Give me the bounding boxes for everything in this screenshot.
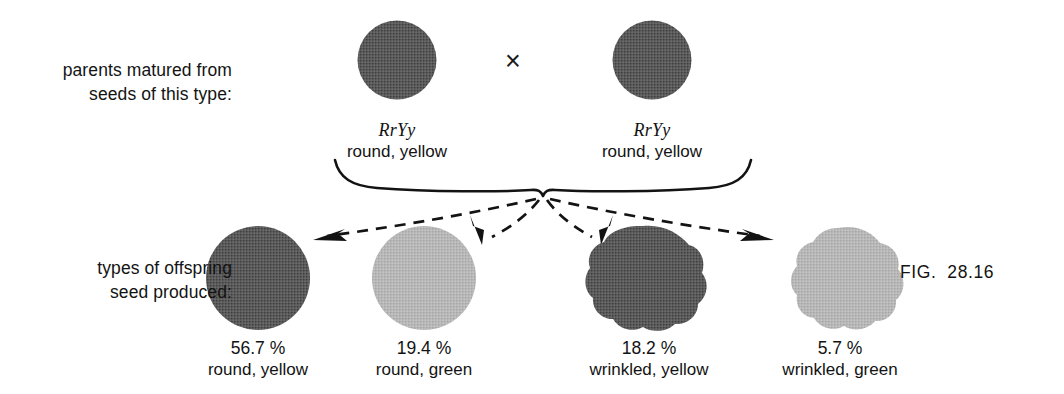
offspring-round-green-seed	[372, 226, 476, 330]
offspring-row-label: types of offspring seed produced:	[0, 256, 232, 304]
arrow-path-wrinkled-yellow	[547, 200, 592, 237]
offspring-wrinkled-green-seed	[791, 227, 903, 329]
offspring-round-green-percent: 19.4 %	[334, 337, 514, 359]
offspring-wrinkled-green-phenotype: wrinkled, green	[750, 359, 930, 381]
offspring-row-label-line2: seed produced:	[0, 280, 232, 304]
parent-left-phenotype: round, yellow	[307, 141, 487, 163]
offspring-wrinkled-yellow-phenotype: wrinkled, yellow	[554, 359, 744, 381]
parent-left-genotype: RrYy	[307, 119, 487, 141]
offspring-row-label-line1: types of offspring	[0, 256, 232, 280]
figure-number: FIG. 28.16	[900, 262, 994, 283]
offspring-round-green-caption: 19.4 % round, green	[334, 337, 514, 381]
parent-left-seed	[358, 21, 437, 100]
offspring-wrinkled-yellow-seed	[585, 226, 706, 331]
offspring-round-yellow-phenotype: round, yellow	[168, 359, 348, 381]
parent-right-caption: RrYy round, yellow	[562, 119, 742, 163]
arrowheads	[313, 215, 774, 245]
offspring-round-yellow-caption: 56.7 % round, yellow	[168, 337, 348, 381]
parents-row-label-line2: seeds of this type:	[0, 82, 232, 106]
offspring-wrinkled-yellow-percent: 18.2 %	[554, 337, 744, 359]
offspring-wrinkled-green-caption: 5.7 % wrinkled, green	[750, 337, 930, 381]
offspring-round-green-phenotype: round, green	[334, 359, 514, 381]
offspring-round-yellow-percent: 56.7 %	[168, 337, 348, 359]
parent-right-genotype: RrYy	[562, 119, 742, 141]
parent-right-seed	[613, 21, 692, 100]
parent-right-phenotype: round, yellow	[562, 141, 742, 163]
arrowhead-round-green	[470, 215, 484, 245]
parents-row-label: parents matured from seeds of this type:	[0, 58, 232, 106]
parent-left-caption: RrYy round, yellow	[307, 119, 487, 163]
figure-canvas: parents matured from seeds of this type:…	[0, 0, 1064, 394]
arrow-path-round-green	[492, 200, 539, 237]
cross-symbol: ×	[496, 44, 530, 78]
offspring-wrinkled-yellow-caption: 18.2 % wrinkled, yellow	[554, 337, 744, 381]
parents-row-label-line1: parents matured from	[0, 58, 232, 82]
offspring-wrinkled-green-percent: 5.7 %	[750, 337, 930, 359]
inheritance-arrows	[327, 199, 760, 237]
parent-cross-brace	[335, 160, 751, 196]
